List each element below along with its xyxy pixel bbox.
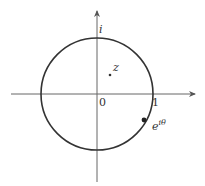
label-origin: 0 [99, 96, 106, 109]
label-one: 1 [152, 96, 159, 109]
complex-plane-diagram: z eiθ i 0 1 [0, 0, 205, 186]
point-e-i-theta [142, 118, 147, 123]
label-e-i-theta: eiθ [152, 118, 166, 133]
label-i: i [99, 23, 103, 36]
point-z [109, 74, 112, 77]
label-z: z [112, 61, 119, 74]
